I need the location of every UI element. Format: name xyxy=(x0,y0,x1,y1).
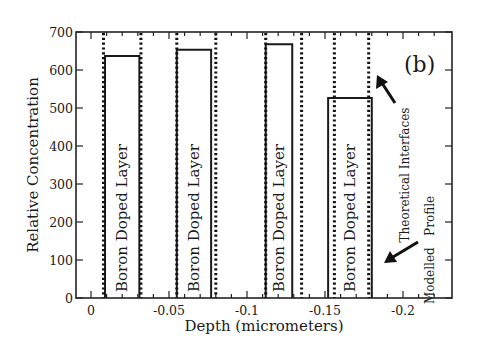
boron-layer-2: Boron Doped Layer xyxy=(177,50,211,298)
y-tick-label: 500 xyxy=(49,101,73,116)
y-axis-title: Relative Concentration xyxy=(24,77,42,253)
legend-modelled-profile: Modelled Profile xyxy=(423,196,437,304)
x-tick-label: -0.05 xyxy=(153,303,185,318)
panel-label: (b) xyxy=(404,52,435,77)
x-tick-label: -0.15 xyxy=(309,303,341,318)
layer-label: Boron Doped Layer xyxy=(185,143,203,292)
y-tick-label: 600 xyxy=(49,63,73,78)
y-tick-label: 700 xyxy=(49,25,73,40)
x-tick-label: -0.2 xyxy=(391,303,415,318)
axis-ticks: 0-0.05-0.1-0.15-0.2010020030040050060070… xyxy=(49,25,452,319)
boron-layer-3: Boron Doped Layer xyxy=(266,44,293,298)
layer-label: Boron Doped Layer xyxy=(341,143,359,292)
boron-layer-1: Boron Doped Layer xyxy=(105,56,139,298)
x-tick-label: -0.1 xyxy=(235,303,259,318)
x-tick-label: 0 xyxy=(87,303,95,318)
y-tick-label: 300 xyxy=(49,177,73,192)
y-tick-label: 400 xyxy=(49,139,73,154)
legend-theoretical-interfaces: Theoretical Interfaces xyxy=(398,108,412,243)
axes-frame xyxy=(76,32,452,298)
arrow-theoretical-icon xyxy=(376,75,395,103)
arrow-modelled-icon xyxy=(384,242,418,263)
layer-label: Boron Doped Layer xyxy=(270,143,288,292)
y-tick-label: 0 xyxy=(65,291,73,306)
concentration-depth-chart: Boron Doped LayerBoron Doped LayerBoron … xyxy=(0,0,478,352)
x-axis-title: Depth (micrometers) xyxy=(184,317,343,335)
y-tick-label: 200 xyxy=(49,215,73,230)
y-tick-label: 100 xyxy=(49,253,73,268)
plot-area: Boron Doped LayerBoron Doped LayerBoron … xyxy=(103,33,371,298)
layer-label: Boron Doped Layer xyxy=(113,143,131,292)
